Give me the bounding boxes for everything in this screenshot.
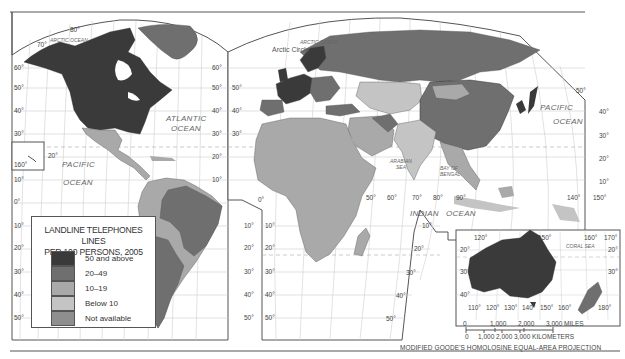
- lat-label: 20°: [14, 244, 24, 251]
- inset-lon-label: 120°: [486, 304, 500, 311]
- pacific-west-label-1: PACIFIC: [62, 160, 95, 169]
- lat-label: 30°: [406, 269, 416, 276]
- inset-lon-label: 180°: [598, 304, 612, 311]
- scale-km-0: 0: [465, 333, 469, 340]
- lat-label: 20°: [212, 153, 222, 160]
- lat-label: 30°: [265, 268, 275, 275]
- inset-lon-label: 170°: [604, 234, 618, 241]
- lat-label: 30°: [14, 268, 24, 275]
- scale-km-3000: 3,000 KILOMETERS: [514, 333, 574, 340]
- legend-label: Not available: [85, 314, 131, 323]
- indian-label-2: OCEAN: [446, 209, 476, 218]
- pacific-east-label-1: PACIFIC: [540, 103, 573, 112]
- lat-label: 50°: [212, 84, 222, 91]
- middle-lobe: [228, 18, 620, 340]
- lat-label: 30°: [244, 268, 254, 275]
- lat-label: 40°: [14, 107, 24, 114]
- legend-swatch-not-available: [51, 311, 75, 326]
- inset-lon-label: 160°: [584, 234, 598, 241]
- lat-label: 50°: [14, 314, 24, 321]
- lat-label: 30°: [599, 132, 609, 139]
- lat-label: 40°: [212, 107, 222, 114]
- lon-label: 0°: [258, 196, 265, 203]
- lat-label: 40°: [599, 108, 609, 115]
- lon-label: 70°: [37, 41, 47, 48]
- scale-miles-1000: 1,000: [490, 320, 506, 327]
- arctic-ocean-east-label: ARCTIC OCEAN: [299, 39, 338, 45]
- lat-label: 40°: [244, 291, 254, 298]
- lon-label: 50°: [366, 194, 376, 201]
- lat-label: 50°: [232, 84, 242, 91]
- inset-lat-label: 20°: [460, 246, 470, 253]
- lon-label: 80°: [433, 194, 443, 201]
- lat-label: 20°: [244, 244, 254, 251]
- coral-sea-label: CORAL SEA: [566, 243, 595, 249]
- lat-label: 50°: [265, 314, 275, 321]
- inset-lon-label: 160°: [558, 304, 572, 311]
- legend-item-50-plus: 50 and above: [51, 251, 134, 266]
- scale-miles-3000: 3,000 MILES: [546, 320, 584, 327]
- legend-label: 10–19: [85, 284, 107, 293]
- pacific-west-label-2: OCEAN: [63, 178, 93, 187]
- legend-label: 20–49: [85, 269, 107, 278]
- inset-lon-label: 130°: [504, 304, 518, 311]
- scale-miles-0: 0: [463, 320, 467, 327]
- lon-label: 90°: [456, 194, 466, 201]
- lat-label: 20°: [265, 244, 275, 251]
- inset-lat-label: 30°: [608, 268, 618, 275]
- projection-caption: MODIFIED GOODE'S HOMOLOSINE EQUAL-AREA P…: [400, 344, 601, 351]
- inset-lon-label: 150°: [538, 234, 552, 241]
- lat-label: 30°: [14, 130, 24, 137]
- arctic-circle-label: Arctic Circle: [272, 46, 309, 53]
- lat-label: 40°: [232, 107, 242, 114]
- lat-label: 10°: [422, 222, 432, 229]
- lat-label: 30°: [212, 130, 222, 137]
- inset-lat-label: 20°: [608, 246, 618, 253]
- lat-label: 10°: [14, 222, 24, 229]
- legend-swatch-20-49: [51, 266, 75, 281]
- lon-label: 60°: [387, 194, 397, 201]
- legend-rows: 50 and above 20–49 10–19 Below 10 Not av…: [51, 251, 134, 326]
- lat-label: 40°: [265, 291, 275, 298]
- legend: LANDLINE TELEPHONES LINES PER 100 PERSON…: [31, 216, 156, 328]
- hawaii-lon-label: 160°: [14, 161, 28, 168]
- lat-label: 10°: [244, 222, 254, 229]
- atlantic-label-2: OCEAN: [171, 124, 201, 133]
- lat-label: 50°: [576, 87, 586, 94]
- legend-swatch-50-plus: [51, 251, 75, 266]
- lon-label: 70°: [412, 194, 422, 201]
- inset-lon-label: 150°: [540, 304, 554, 311]
- legend-swatch-below-10: [51, 296, 75, 311]
- atlantic-label-1: ATLANTIC: [165, 114, 206, 123]
- inset-lat-label: 30°: [460, 268, 470, 275]
- legend-label: Below 10: [85, 299, 118, 308]
- scale-km-1000: 1,000: [478, 333, 494, 340]
- indian-label-1: INDIAN: [410, 209, 439, 218]
- legend-item-10-19: 10–19: [51, 281, 134, 296]
- bay-of-bengal-label-2: BENGAL: [440, 171, 461, 177]
- scale-km-2000: 2,000: [496, 333, 512, 340]
- inset-lon-label: 110°: [468, 304, 481, 311]
- inset-lon-label: 120°: [474, 234, 488, 241]
- lat-label: 10°: [265, 222, 275, 229]
- australia-inset: [456, 230, 620, 326]
- inset-lat-label: 40°: [460, 291, 470, 298]
- legend-item-not-available: Not available: [51, 311, 134, 326]
- lat-label: 50°: [386, 315, 396, 322]
- lat-label: 40°: [396, 292, 406, 299]
- lat-label: 0°: [14, 198, 21, 205]
- legend-label: 50 and above: [85, 254, 134, 263]
- lon-label: 150°: [593, 194, 607, 201]
- lat-label: 60°: [212, 64, 222, 71]
- arabian-sea-label-2: SEA: [396, 164, 407, 170]
- lat-label: 40°: [14, 291, 24, 298]
- scale-miles-2000: 2,000: [518, 320, 534, 327]
- lat-label: 30°: [232, 130, 242, 137]
- lat-label: 10°: [14, 176, 24, 183]
- pacific-east-label-2: OCEAN: [553, 117, 583, 126]
- lat-label: 10°: [599, 178, 609, 185]
- legend-item-below-10: Below 10: [51, 296, 134, 311]
- hawaii-lat-label: 20°: [48, 152, 58, 159]
- arctic-ocean-west-label: ARCTIC OCEAN: [49, 37, 88, 43]
- lat-label: 10°: [212, 176, 222, 183]
